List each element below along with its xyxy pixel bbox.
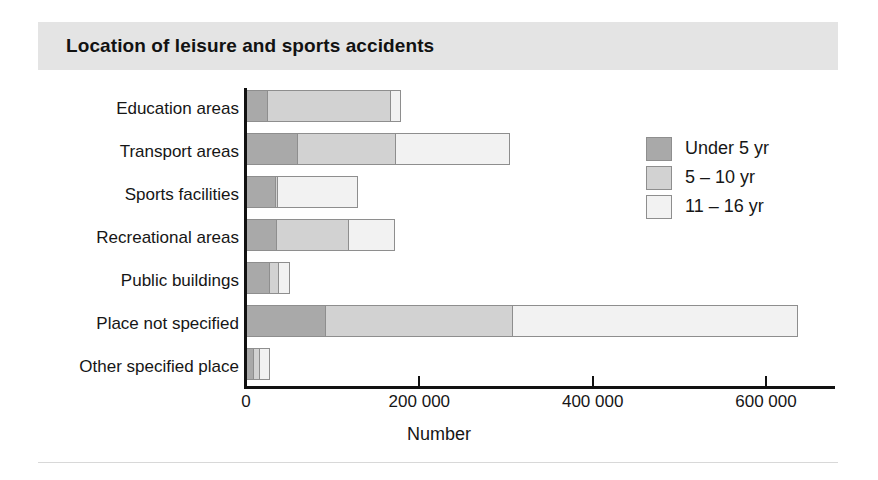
bar-education-areas[interactable] — [245, 90, 401, 122]
bar-segment-under-5-yr — [245, 176, 276, 208]
bar-segment-under-5-yr — [245, 262, 270, 294]
bar-segment-under-5-yr — [245, 90, 268, 122]
bar-segment-11-16-yr — [390, 90, 400, 122]
legend-item-under-5-yr[interactable]: Under 5 yr — [646, 134, 769, 163]
bar-place-not-specified[interactable] — [245, 305, 798, 337]
bar-other-specified-place[interactable] — [245, 348, 270, 380]
legend-swatch-icon — [646, 166, 672, 190]
x-axis-tick-label: 0 — [241, 392, 250, 412]
category-label-place-not-specified: Place not specified — [96, 315, 239, 332]
bar-segment-11-16-yr — [348, 219, 395, 251]
chart-page: Location of leisure and sports accidents… — [0, 0, 878, 480]
x-axis-tick — [765, 376, 767, 387]
bar-segment-11-16-yr — [278, 262, 290, 294]
legend-label: 5 – 10 yr — [685, 167, 755, 188]
x-axis-tick-label: 400 000 — [562, 392, 623, 412]
x-axis-tick-label: 200 000 — [389, 392, 450, 412]
category-label-other-specified-place: Other specified place — [79, 358, 239, 375]
legend-item-5-10-yr[interactable]: 5 – 10 yr — [646, 163, 769, 192]
category-label-education-areas: Education areas — [116, 100, 239, 117]
bar-segment-under-5-yr — [245, 133, 298, 165]
bottom-divider — [38, 462, 838, 463]
x-axis-tick — [418, 376, 420, 387]
category-label-public-buildings: Public buildings — [121, 272, 239, 289]
legend: Under 5 yr 5 – 10 yr 11 – 16 yr — [646, 134, 769, 221]
x-axis-line — [244, 386, 835, 389]
bar-segment-11-16-yr — [277, 176, 358, 208]
bar-segment-11-16-yr — [259, 348, 269, 380]
category-label-recreational-areas: Recreational areas — [96, 229, 239, 246]
category-label-sports-facilities: Sports facilities — [125, 186, 239, 203]
y-axis-line — [244, 88, 247, 389]
x-axis-tick-label: 600 000 — [735, 392, 796, 412]
bar-sports-facilities[interactable] — [245, 176, 358, 208]
bar-segment-11-16-yr — [395, 133, 510, 165]
x-axis-title: Number — [0, 424, 878, 445]
plot-area: Education areas Transport areas Sports f… — [0, 0, 878, 480]
bar-segment-11-16-yr — [512, 305, 798, 337]
bar-segment-5-10-yr — [267, 90, 391, 122]
legend-item-11-16-yr[interactable]: 11 – 16 yr — [646, 192, 769, 221]
legend-swatch-icon — [646, 137, 672, 161]
legend-label: 11 – 16 yr — [685, 196, 764, 217]
x-axis-tick — [592, 376, 594, 387]
category-label-transport-areas: Transport areas — [120, 143, 239, 160]
legend-label: Under 5 yr — [685, 138, 769, 159]
x-axis-tick — [245, 376, 247, 387]
bar-recreational-areas[interactable] — [245, 219, 395, 251]
legend-swatch-icon — [646, 195, 672, 219]
bar-segment-under-5-yr — [245, 305, 326, 337]
bar-public-buildings[interactable] — [245, 262, 290, 294]
bar-segment-5-10-yr — [297, 133, 396, 165]
bar-segment-under-5-yr — [245, 219, 277, 251]
bar-segment-5-10-yr — [325, 305, 513, 337]
bar-segment-5-10-yr — [276, 219, 349, 251]
bar-transport-areas[interactable] — [245, 133, 510, 165]
